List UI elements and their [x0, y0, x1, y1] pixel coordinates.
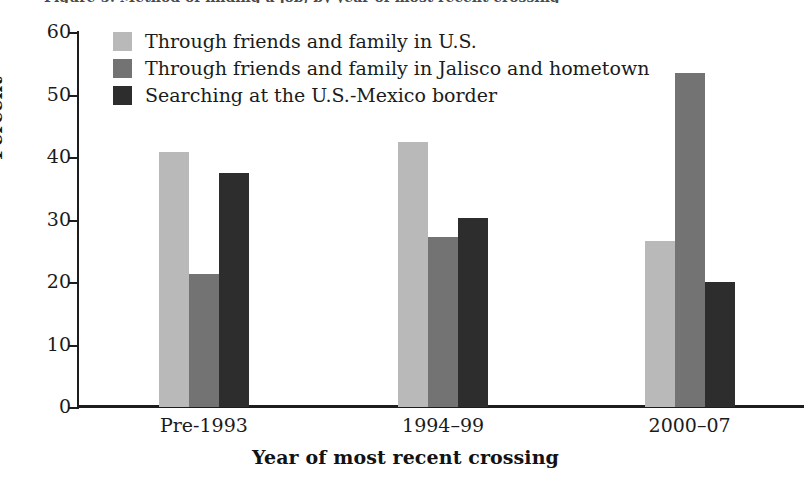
- bar: [458, 218, 488, 407]
- legend-swatch-series-2: [113, 59, 132, 78]
- figure-caption-cropped: Figure 5. Method of finding a job, by ye…: [44, 0, 644, 3]
- x-axis-title: Year of most recent crossing: [0, 446, 811, 468]
- y-axis-tick-label: 10: [47, 334, 71, 354]
- y-axis-tick-label: 50: [47, 84, 71, 104]
- legend-label-series-2: Through friends and family in Jalisco an…: [145, 58, 649, 79]
- y-axis-tick-label: 30: [47, 209, 71, 229]
- x-axis-group-label: 1994–99: [353, 414, 533, 436]
- figure-bar-chart: Figure 5. Method of finding a job, by ye…: [0, 0, 811, 478]
- y-axis-tick-label: 20: [47, 271, 71, 291]
- y-axis-tick-label: 40: [47, 146, 71, 166]
- bar: [705, 282, 735, 407]
- bar: [645, 241, 675, 407]
- bar: [398, 142, 428, 407]
- y-axis-tick-label: 60: [47, 21, 71, 41]
- x-axis-group-label: Pre-1993: [114, 414, 294, 436]
- bar: [219, 173, 249, 407]
- y-axis-title: Percent: [0, 76, 6, 160]
- x-axis-group-label: 2000–07: [600, 414, 780, 436]
- legend-label-series-1: Through friends and family in U.S.: [145, 31, 477, 52]
- legend-item: Through friends and family in Jalisco an…: [113, 55, 649, 82]
- legend-swatch-series-3: [113, 86, 132, 105]
- legend-item: Through friends and family in U.S.: [113, 28, 649, 55]
- bar: [675, 73, 705, 407]
- chart-legend: Through friends and family in U.S. Throu…: [113, 28, 649, 109]
- bar: [189, 274, 219, 407]
- bar: [159, 152, 189, 407]
- legend-label-series-3: Searching at the U.S.-Mexico border: [145, 85, 497, 106]
- legend-swatch-series-1: [113, 32, 132, 51]
- bar: [428, 237, 458, 407]
- legend-item: Searching at the U.S.-Mexico border: [113, 82, 649, 109]
- y-axis-tick-label: 0: [59, 396, 71, 416]
